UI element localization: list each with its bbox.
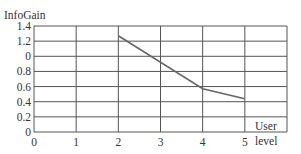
chart-grid bbox=[34, 26, 287, 132]
series-line bbox=[118, 36, 245, 99]
x-tick-label: 5 bbox=[242, 136, 248, 148]
y-tick-label: 0.6 bbox=[17, 81, 32, 93]
data-series bbox=[118, 36, 245, 99]
x-tick-label: 4 bbox=[200, 136, 206, 148]
infogain-line-chart: 00.20.40.60.801.21.4 012345 InfoGain Use… bbox=[0, 0, 301, 154]
x-axis-title-line1: User bbox=[255, 120, 277, 132]
x-tick-label: 3 bbox=[158, 136, 164, 148]
y-tick-label: 1.2 bbox=[17, 35, 32, 47]
x-tick-label: 2 bbox=[115, 136, 121, 148]
y-tick-label: 0.8 bbox=[17, 65, 32, 77]
y-tick-label: 0.2 bbox=[17, 111, 32, 123]
y-tick-label: 0 bbox=[25, 50, 31, 62]
y-axis-tick-labels: 00.20.40.60.801.21.4 bbox=[17, 20, 32, 138]
x-axis-title-line2: level bbox=[255, 135, 277, 147]
x-axis-tick-labels: 012345 bbox=[31, 136, 248, 148]
y-axis-title: InfoGain bbox=[4, 9, 46, 21]
x-tick-label: 1 bbox=[73, 136, 79, 148]
x-tick-label: 0 bbox=[31, 136, 37, 148]
y-tick-label: 1.4 bbox=[17, 20, 32, 32]
y-tick-label: 0.4 bbox=[17, 96, 32, 108]
